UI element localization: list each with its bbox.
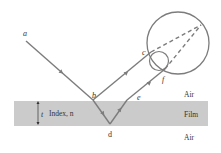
label-d: d <box>108 130 112 139</box>
label-air-bottom: Air <box>184 133 195 142</box>
label-a: a <box>23 29 27 38</box>
label-air-top: Air <box>184 90 195 99</box>
label-b: b <box>92 91 96 100</box>
ray-e-f <box>127 69 165 100</box>
label-index: Index, n <box>49 109 74 118</box>
thin-film-diagram: a b c d e f t Index, n Air Film Air <box>0 0 221 153</box>
label-film: Film <box>184 110 198 119</box>
ray-a-b <box>26 41 93 100</box>
eye-circle <box>147 12 209 74</box>
dashed-extensions <box>151 25 201 69</box>
label-f: f <box>162 75 166 84</box>
label-e: e <box>137 93 141 102</box>
ray-b-c <box>93 52 151 100</box>
label-c: c <box>142 48 146 57</box>
